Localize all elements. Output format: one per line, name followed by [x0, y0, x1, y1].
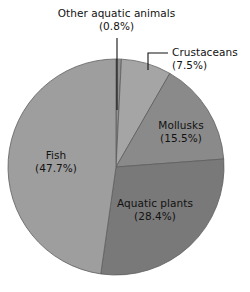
- slice-label-mollusks-name: Mollusks: [148, 119, 214, 132]
- slice-label-aquatic-plants: Aquatic plants (28.4%): [113, 197, 197, 222]
- slice-label-mollusks: Mollusks (15.5%): [148, 119, 214, 144]
- slice-label-aquatic-plants-name: Aquatic plants: [113, 197, 197, 210]
- slice-label-other-aquatic-animals-value: (0.8%): [50, 20, 183, 33]
- slice-label-mollusks-value: (15.5%): [148, 132, 214, 145]
- pie-chart: Other aquatic animals (0.8%) Crustaceans…: [0, 0, 250, 292]
- slice-label-crustaceans-name: Crustaceans: [172, 46, 238, 59]
- slice-label-aquatic-plants-value: (28.4%): [113, 210, 197, 223]
- slice-label-other-aquatic-animals: Other aquatic animals (0.8%): [50, 7, 183, 32]
- slice-label-crustaceans: Crustaceans (7.5%): [172, 46, 238, 71]
- slice-label-crustaceans-value: (7.5%): [172, 59, 238, 72]
- slice-label-fish-name: Fish: [28, 149, 84, 162]
- pie-chart-svg: [0, 0, 250, 292]
- slice-label-fish-value: (47.7%): [28, 162, 84, 175]
- slice-label-other-aquatic-animals-name: Other aquatic animals: [50, 7, 183, 20]
- slice-label-fish: Fish (47.7%): [28, 149, 84, 174]
